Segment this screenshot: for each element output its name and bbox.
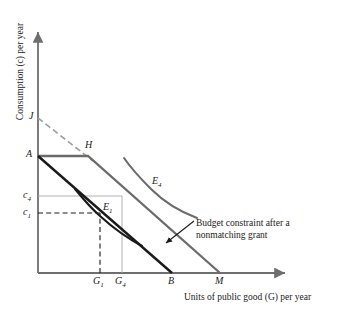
point-label-j: J [29,111,33,121]
axis-tick-label-g4: G4 [115,276,126,289]
indifference-curve-figure: Consumption (c) per year Units of public… [0,0,348,320]
x-axis-title: Units of public good (G) per year [184,292,311,303]
axis-tick-label-b: B [168,276,174,286]
axis-tick-label-c4: c4 [23,190,31,203]
axis-tick-label-c1-sub: 1 [27,212,31,220]
grant-budget-constraint [38,156,220,273]
axis-tick-label-g1: G1 [93,276,104,289]
annotation-line-1: Budget constraint after a [196,218,290,230]
axis-tick-label-c1: c1 [23,207,31,220]
point-label-e4-sub: 4 [158,181,162,189]
budget-constraint-annotation: Budget constraint after a nonmatching gr… [196,218,290,242]
point-label-e4: E4 [152,176,162,189]
point-label-h: H [85,140,92,150]
plot-canvas [0,0,348,320]
axis-tick-label-c4-sub: 4 [27,195,31,203]
point-label-a: A [26,149,32,159]
axis-tick-label-m: M [215,276,223,286]
y-axis-title: Consumption (c) per year [15,6,26,136]
axis-tick-label-g1-sub: 1 [100,281,104,289]
point-label-e1: E1 [103,202,113,215]
annotation-line-2: nonmatching grant [196,230,290,242]
axis-tick-label-g4-sub: 4 [122,281,126,289]
annotation-pointer-arrow [166,221,194,243]
point-label-e1-sub: 1 [109,207,113,215]
